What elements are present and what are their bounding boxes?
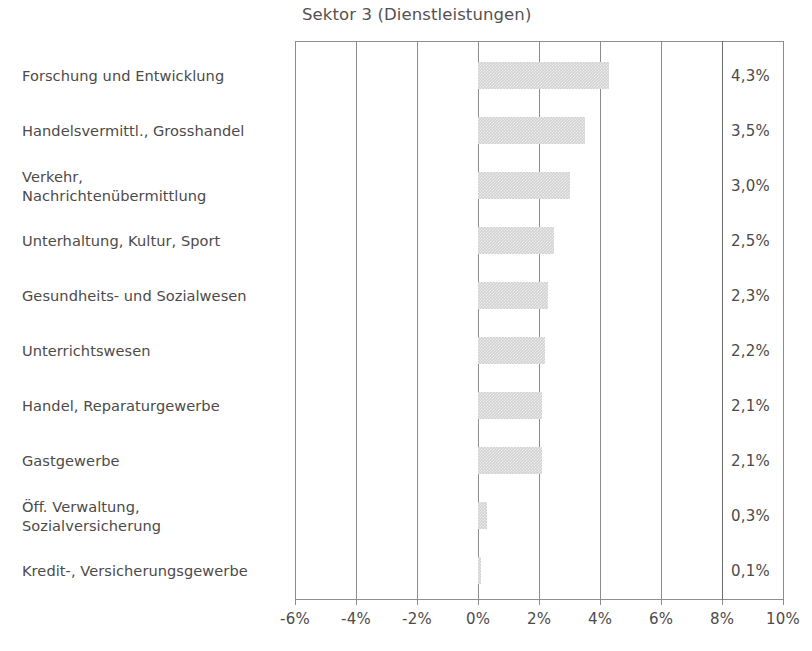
category-label: Öff. Verwaltung,Sozialversicherung (22, 488, 284, 543)
value-label: 3,0% (731, 158, 793, 213)
chart-title: Sektor 3 (Dienstleistungen) (302, 4, 531, 26)
category-label-line: Handelsvermittl., Grosshandel (22, 121, 284, 140)
category-label-line: Gastgewerbe (22, 451, 284, 470)
x-axis-tick-label: -6% (280, 610, 310, 628)
x-axis-labels: -6%-4%-2%0%2%4%6%8%10% (0, 610, 812, 636)
value-label: 4,3% (731, 48, 793, 103)
category-label-line: Verkehr, (22, 167, 284, 186)
category-label: Handelsvermittl., Grosshandel (22, 103, 284, 158)
chart-row: Unterhaltung, Kultur, Sport2,5% (0, 213, 812, 268)
x-axis-tick-marks (295, 600, 783, 608)
category-label-line: Sozialversicherung (22, 516, 284, 535)
category-label-line: Handel, Reparaturgewerbe (22, 396, 284, 415)
chart-row: Handel, Reparaturgewerbe2,1% (0, 378, 812, 433)
value-label: 2,1% (731, 433, 793, 488)
category-label: Gastgewerbe (22, 433, 284, 488)
value-label: 2,2% (731, 323, 793, 378)
category-label: Kredit-, Versicherungsgewerbe (22, 543, 284, 598)
chart-row: Kredit-, Versicherungsgewerbe0,1% (0, 543, 812, 598)
category-label-line: Nachrichtenübermittlung (22, 186, 284, 205)
x-axis-tick (539, 600, 540, 605)
chart-row: Verkehr,Nachrichtenübermittlung3,0% (0, 158, 812, 213)
chart-row: Handelsvermittl., Grosshandel3,5% (0, 103, 812, 158)
category-label: Handel, Reparaturgewerbe (22, 378, 284, 433)
x-axis-tick (600, 600, 601, 605)
x-axis-tick-label: 6% (649, 610, 673, 628)
x-axis-tick (478, 600, 479, 605)
x-axis-tick (661, 600, 662, 605)
category-label-line: Gesundheits- und Sozialwesen (22, 286, 284, 305)
category-label-line: Öff. Verwaltung, (22, 497, 284, 516)
x-axis-tick-label: -2% (402, 610, 432, 628)
chart-row: Gastgewerbe2,1% (0, 433, 812, 488)
x-axis-tick-label: 4% (588, 610, 612, 628)
chart-row: Öff. Verwaltung,Sozialversicherung0,3% (0, 488, 812, 543)
category-label-line: Unterhaltung, Kultur, Sport (22, 231, 284, 250)
x-axis-tick-label: 10% (766, 610, 800, 628)
category-label-line: Kredit-, Versicherungsgewerbe (22, 561, 284, 580)
category-label: Unterrichtswesen (22, 323, 284, 378)
chart-row: Forschung und Entwicklung4,3% (0, 48, 812, 103)
category-label-line: Unterrichtswesen (22, 341, 284, 360)
category-label: Unterhaltung, Kultur, Sport (22, 213, 284, 268)
x-axis-tick-label: 8% (710, 610, 734, 628)
bar-chart: Sektor 3 (Dienstleistungen) Forschung un… (0, 0, 812, 651)
value-label: 0,3% (731, 488, 793, 543)
chart-row: Unterrichtswesen2,2% (0, 323, 812, 378)
category-label: Verkehr,Nachrichtenübermittlung (22, 158, 284, 213)
category-label-line: Forschung und Entwicklung (22, 66, 284, 85)
x-axis-tick (783, 600, 784, 605)
value-label: 2,1% (731, 378, 793, 433)
x-axis-tick (356, 600, 357, 605)
category-label: Gesundheits- und Sozialwesen (22, 268, 284, 323)
value-label: 2,3% (731, 268, 793, 323)
value-label: 0,1% (731, 543, 793, 598)
chart-row: Gesundheits- und Sozialwesen2,3% (0, 268, 812, 323)
x-axis-tick-label: -4% (341, 610, 371, 628)
x-axis-tick (295, 600, 296, 605)
category-label: Forschung und Entwicklung (22, 48, 284, 103)
value-label: 2,5% (731, 213, 793, 268)
x-axis-tick (417, 600, 418, 605)
value-label: 3,5% (731, 103, 793, 158)
x-axis-tick-label: 0% (466, 610, 490, 628)
x-axis-tick-label: 2% (527, 610, 551, 628)
x-axis-tick (722, 600, 723, 605)
